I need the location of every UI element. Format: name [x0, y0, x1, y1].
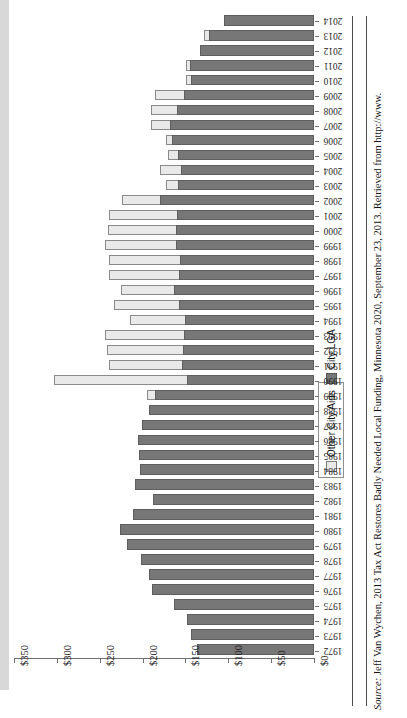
bar-segment-city-lga	[187, 375, 314, 385]
bar-segment-city-lga	[184, 330, 314, 340]
bar-row	[14, 418, 314, 433]
bar-segment-other-city-aids	[130, 315, 187, 325]
y-axis-label: 1981	[318, 510, 348, 522]
bar-segment-other-city-aids	[160, 165, 182, 175]
bar-row	[14, 553, 314, 568]
y-axis-label: 1987	[318, 420, 348, 432]
stacked-bar	[167, 150, 314, 160]
y-axis-label: 2014	[318, 15, 348, 27]
stacked-bar	[138, 435, 314, 445]
stacked-bar	[150, 105, 314, 115]
bar-segment-other-city-aids	[105, 330, 185, 340]
bar-segment-city-lga	[190, 60, 314, 70]
y-axis-label: 2012	[318, 45, 348, 57]
stacked-bar	[152, 584, 314, 594]
bar-row	[14, 14, 314, 29]
bar-segment-other-city-aids	[151, 105, 178, 115]
bar-row	[14, 568, 314, 583]
stacked-bar	[165, 135, 314, 145]
x-axis-label: $100	[233, 620, 244, 666]
y-axis-label: 1994	[318, 315, 348, 327]
y-axis-label: 1985	[318, 450, 348, 462]
bar-row	[14, 284, 314, 299]
x-axis-label: $250	[105, 620, 116, 666]
stacked-bar	[146, 390, 314, 400]
stacked-bar	[200, 45, 314, 55]
bar-row	[14, 149, 314, 164]
bar-row	[14, 224, 314, 239]
bar-segment-city-lga	[182, 360, 314, 370]
stacked-bar	[106, 345, 314, 355]
y-axis-label: 1999	[318, 240, 348, 252]
stacked-bar	[104, 240, 314, 250]
x-axis-label: $350	[19, 620, 30, 666]
vertical-rule-left	[352, 16, 353, 706]
bar-segment-city-lga	[180, 255, 314, 265]
y-axis-label: 1992	[318, 345, 348, 357]
stacked-bar	[108, 210, 314, 220]
bar-segment-other-city-aids	[108, 225, 177, 235]
bar-segment-city-lga	[149, 405, 314, 415]
x-axis-tick	[271, 658, 272, 663]
x-axis-label: $0	[319, 620, 330, 666]
stacked-bar	[165, 180, 314, 190]
bar-segment-city-lga	[149, 569, 314, 579]
y-axis-label: 2002	[318, 195, 348, 207]
stacked-bar-chart: Other City Aids City LGA 201420132012201…	[0, 0, 352, 718]
bar-row	[14, 89, 314, 104]
bar-row	[14, 508, 314, 523]
bar-segment-other-city-aids	[114, 300, 180, 310]
y-axis-label: 1978	[318, 555, 348, 567]
bar-segment-city-lga	[174, 599, 314, 609]
bar-segment-other-city-aids	[107, 345, 184, 355]
bar-segment-city-lga	[153, 494, 314, 504]
bar-row	[14, 478, 314, 493]
bar-segment-city-lga	[191, 75, 314, 85]
y-axis-label: 2010	[318, 75, 348, 87]
bar-row	[14, 523, 314, 538]
y-axis-label: 2006	[318, 135, 348, 147]
x-axis-tick	[143, 658, 144, 663]
bar-segment-city-lga	[140, 464, 314, 474]
stacked-bar	[174, 599, 314, 609]
bar-segment-city-lga	[187, 614, 314, 624]
stacked-bar	[108, 360, 314, 370]
x-axis-line	[14, 658, 315, 659]
y-axis-label: 1979	[318, 540, 348, 552]
bar-row	[14, 448, 314, 463]
stacked-bar	[121, 195, 314, 205]
bar-segment-city-lga	[184, 90, 314, 100]
bar-segment-city-lga	[160, 195, 314, 205]
bar-row	[14, 179, 314, 194]
y-axis-label: 1995	[318, 300, 348, 312]
stacked-bar	[141, 554, 314, 564]
y-axis-label: 2007	[318, 120, 348, 132]
bar-row	[14, 44, 314, 59]
bar-row	[14, 598, 314, 613]
stacked-bar	[142, 420, 314, 430]
stacked-bar	[107, 225, 314, 235]
y-axis-label: 1984	[318, 465, 348, 477]
stacked-bar	[108, 255, 314, 265]
bar-segment-city-lga	[152, 584, 314, 594]
x-axis-label: $150	[190, 620, 201, 666]
bar-row	[14, 373, 314, 388]
bar-row	[14, 493, 314, 508]
plot-area	[14, 14, 314, 658]
stacked-bar	[139, 450, 314, 460]
bar-segment-city-lga	[181, 165, 314, 175]
bar-segment-city-lga	[138, 435, 314, 445]
source-text: Jeff Van Wychen, 2013 Tax Act Restores B…	[372, 93, 383, 678]
bar-segment-city-lga	[178, 150, 314, 160]
bar-segment-other-city-aids	[122, 195, 161, 205]
bar-row	[14, 314, 314, 329]
stacked-bar	[154, 90, 314, 100]
y-axis-label: 2013	[318, 30, 348, 42]
y-axis-label: 1982	[318, 495, 348, 507]
bar-segment-other-city-aids	[105, 240, 177, 250]
bar-segment-city-lga	[133, 509, 314, 519]
vertical-rule-right	[366, 16, 367, 706]
bar-segment-city-lga	[209, 30, 314, 40]
bar-row	[14, 104, 314, 119]
stacked-bar	[133, 509, 314, 519]
